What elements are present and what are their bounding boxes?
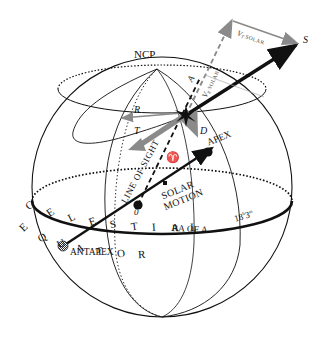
antapex-label: ANTAPEX [70, 248, 114, 258]
component-T-arrow-shaft [140, 116, 184, 145]
diagram-canvas [0, 0, 324, 346]
component-T-label: T [134, 126, 140, 136]
apex-marker [203, 147, 212, 156]
declination-circle-front [58, 89, 266, 113]
ra-of-a-label: RA OF A [172, 224, 208, 235]
celestial-sphere-diagram: NCP S APEX ANTAPEX 0 R T D ♈ A LINE OF S… [0, 0, 324, 346]
aries-point-marker [163, 181, 167, 185]
component-D-label: D [200, 126, 207, 136]
hour-circle-arc-left [73, 69, 157, 143]
sphere-outline [32, 57, 292, 317]
component-R-arrow [122, 113, 182, 118]
component-R-label: R [134, 105, 140, 115]
origin-label: 0 [134, 208, 139, 217]
star-S-label: S [303, 35, 308, 45]
ncp-label: NCP [134, 49, 155, 60]
antapex-marker [58, 241, 68, 251]
aries-symbol: ♈ [166, 152, 180, 163]
